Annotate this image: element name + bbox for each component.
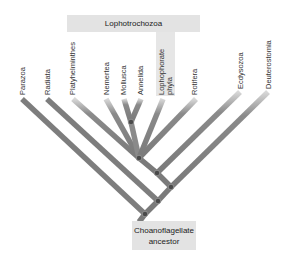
- node-lophotrochozoa: [136, 155, 142, 161]
- branch-lophotrochozoa-stem: [139, 158, 157, 173]
- node-bilateria: [168, 184, 174, 190]
- choanoflagellate-ancestor-label: Choanoflagellate ancestor: [132, 221, 196, 250]
- taxon-label-ecdysozoa: Ecdysozoa: [236, 52, 245, 89]
- taxon-label-radiata: Radiata: [43, 69, 52, 95]
- ancestor-label-line1: Choanoflagellate: [132, 225, 196, 236]
- node-protostomia: [154, 170, 160, 176]
- taxon-label-rotifera: Rotifera: [190, 69, 199, 95]
- node-mollusca-annelida: [128, 119, 134, 125]
- node-root: [142, 211, 148, 217]
- taxon-label-annelida: Annelida: [136, 66, 145, 95]
- branch-rotifera: [139, 99, 196, 158]
- phylogenetic-tree-diagram: Lophotrochozoa: [0, 0, 290, 254]
- branch-annelida: [131, 99, 141, 122]
- node-eumetazoa: [155, 198, 161, 204]
- taxon-label-deuterostomia: Deuterostomia: [264, 40, 273, 89]
- taxon-label-lophophorate-line2: phyla: [165, 77, 174, 95]
- tree-branches: [0, 0, 290, 254]
- taxon-label-parazoa: Parazoa: [18, 67, 27, 95]
- taxon-label-platyhelminthes: Platyhelminthes: [68, 42, 77, 95]
- taxon-label-nemertea: Nemertea: [102, 62, 111, 95]
- ancestor-label-line2: ancestor: [132, 236, 196, 247]
- taxon-label-mollusca: Mollusca: [119, 65, 128, 95]
